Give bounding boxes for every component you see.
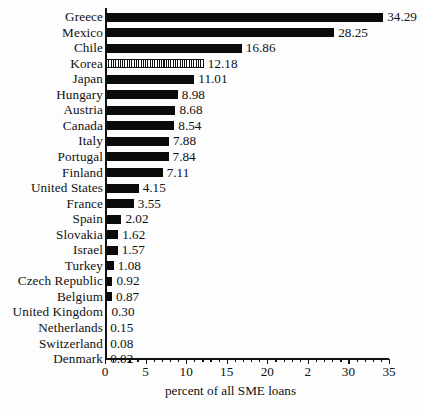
bar [105,121,174,130]
x-axis-title: percent of all SME loans [0,383,423,399]
bar-row: Greece34.29 [0,9,423,25]
category-label: Netherlands [0,320,103,336]
bar-value-label: 0.87 [116,289,139,305]
category-label: Canada [0,118,103,134]
category-label: Japan [0,71,103,87]
x-tick-minor [137,359,138,362]
bar-value-label: 16.86 [246,40,276,56]
bar [105,168,163,177]
bar-row: Turkey1.08 [0,258,423,274]
x-tick-minor [300,359,301,362]
bar-value-label: 11.01 [198,71,227,87]
bar-fill [105,90,178,99]
bar-value-label: 8.68 [179,102,202,118]
category-label: Switzerland [0,336,103,352]
bar-fill [105,184,139,193]
x-tick-minor [259,359,260,362]
bar-row: Chile16.86 [0,40,423,56]
bar-row: Slovakia1.62 [0,227,423,243]
x-tick-minor [292,359,293,362]
bar-fill [105,121,174,130]
bar-row: Mexico28.25 [0,25,423,41]
bar [105,75,194,84]
x-tick-label: 0 [102,364,109,380]
bar [105,215,121,224]
bar-row: United Kingdom0.30 [0,304,423,320]
bar-fill [105,28,334,37]
category-label: Chile [0,40,103,56]
category-label: Portugal [0,149,103,165]
bar-fill [105,230,118,239]
x-tick-minor [154,359,155,362]
bar [105,137,169,146]
bar-row: Switzerland0.08 [0,336,423,352]
x-tick-label: 30 [342,364,355,380]
x-tick-minor [113,359,114,362]
x-axis-line [105,358,389,360]
bar-chart: Greece34.29Mexico28.25Chile16.86Korea12.… [0,0,423,409]
bar-value-label: 7.88 [173,133,196,149]
bar-value-label: 4.15 [143,180,166,196]
bar-row: United States4.15 [0,180,423,196]
bar-value-label: 1.57 [122,242,145,258]
bar-value-label: 12.18 [208,56,238,72]
bar-row: Korea12.18 [0,56,423,72]
x-tick-minor [357,359,358,362]
bar-row: Spain2.02 [0,211,423,227]
category-label: Austria [0,102,103,118]
x-tick-label: 2 [305,364,312,380]
y-axis-line [105,8,107,359]
category-label: Mexico [0,25,103,41]
bar-row: Canada8.54 [0,118,423,134]
bar-value-label: 7.11 [167,165,190,181]
x-tick-minor [332,359,333,362]
bar [105,28,334,37]
category-label: Denmark [0,351,103,367]
bar-row: Japan11.01 [0,71,423,87]
bar [105,90,178,99]
bar [105,230,118,239]
x-tick-label: 20 [261,364,274,380]
x-tick-label: 35 [382,364,395,380]
bar-value-label: 0.92 [116,273,139,289]
x-tick-minor [194,359,195,362]
bar-fill [105,152,169,161]
x-tick-minor [162,359,163,362]
category-label: Greece [0,9,103,25]
category-label: Italy [0,133,103,149]
category-label: Slovakia [0,227,103,243]
bar-row: Italy7.88 [0,133,423,149]
x-tick-minor [235,359,236,362]
x-tick-minor [210,359,211,362]
bar [105,184,139,193]
x-tick-minor [340,359,341,362]
x-tick-label: 10 [180,364,193,380]
bar-value-label: 1.62 [122,227,145,243]
bar-fill [105,44,242,53]
x-tick-minor [243,359,244,362]
x-tick-label: 5 [142,364,149,380]
bar-row: Netherlands0.15 [0,320,423,336]
bar-value-label: 0.08 [110,336,133,352]
x-tick-minor [129,359,130,362]
bar-row: Austria8.68 [0,102,423,118]
category-label: United Kingdom [0,304,103,320]
bar-value-label: 7.84 [173,149,196,165]
bar-value-label: 28.25 [338,25,368,41]
category-label: Israel [0,242,103,258]
x-tick-minor [324,359,325,362]
bar-value-label: 1.08 [118,258,141,274]
bar-row: Hungary8.98 [0,87,423,103]
bar-fill [105,215,121,224]
bar [105,13,383,22]
bar-row: Finland7.11 [0,165,423,181]
category-label: France [0,196,103,212]
bar-fill [105,199,134,208]
bar-value-label: 0.15 [110,320,133,336]
x-tick-minor [170,359,171,362]
bar-fill [105,246,118,255]
bar-row: Czech Republic0.92 [0,273,423,289]
x-tick-minor [275,359,276,362]
bar-value-label: 8.98 [182,87,205,103]
category-label: Korea [0,56,103,72]
